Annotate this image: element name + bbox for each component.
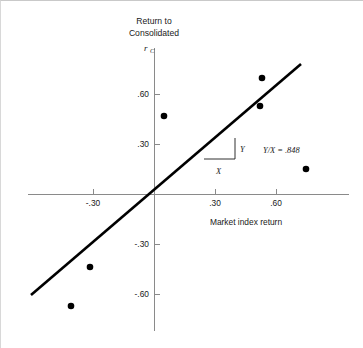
regression-line xyxy=(31,64,301,295)
x-tick-label-60: .60 xyxy=(270,198,282,208)
y-axis-symbol-subscript: C xyxy=(150,47,155,54)
slope-run-label: X xyxy=(215,167,222,176)
y-tick-label-neg60: -.60 xyxy=(135,289,150,299)
data-point xyxy=(68,303,75,310)
chart-title-line1: Return to xyxy=(136,16,172,26)
y-tick-label-60: .60 xyxy=(137,89,149,99)
data-point xyxy=(259,75,266,82)
x-tick-label-30: .30 xyxy=(209,198,221,208)
data-point xyxy=(303,166,310,173)
data-point xyxy=(161,113,168,120)
y-axis-symbol: r xyxy=(144,43,148,53)
slope-annotation: Y/X = .848 xyxy=(263,146,300,155)
slope-triangle xyxy=(204,138,235,159)
chart-title-line2: Consolidated xyxy=(129,28,179,38)
data-point xyxy=(87,264,94,271)
slope-rise-label: Y xyxy=(240,145,246,154)
data-point xyxy=(257,103,264,110)
y-tick-label-30: .30 xyxy=(137,139,149,149)
y-tick-label-neg30: -.30 xyxy=(135,239,150,249)
x-tick-label-neg30: -.30 xyxy=(86,198,101,208)
chart-figure: Return to Consolidated r C -.30 .30 .60 … xyxy=(0,0,363,348)
x-axis-label: Market index return xyxy=(210,217,282,227)
scatter-plot-canvas: Return to Consolidated r C -.30 .30 .60 … xyxy=(1,1,363,348)
